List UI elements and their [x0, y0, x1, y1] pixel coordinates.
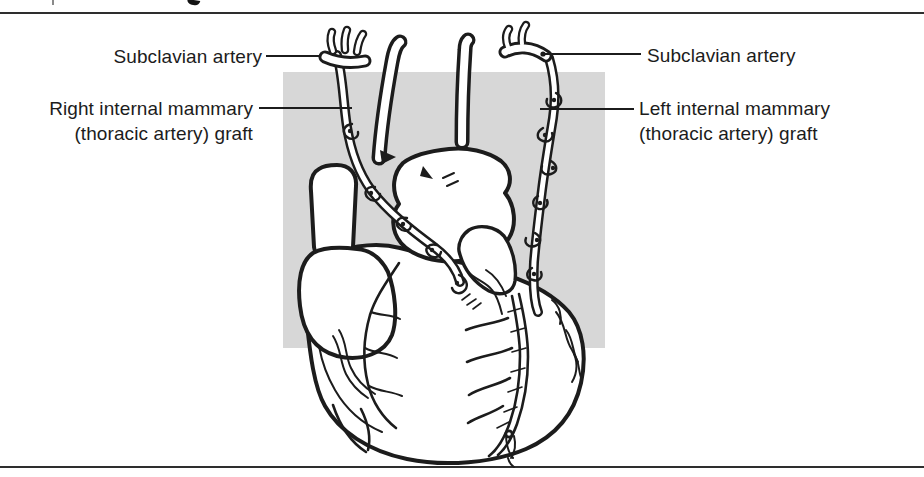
leader-endpoint-dot — [540, 51, 545, 56]
label-rima-graft: Right internal mammary (thoracic artery)… — [49, 96, 253, 146]
label-subclavian-right: Subclavian artery — [647, 43, 796, 68]
right-atrium — [299, 248, 395, 358]
label-lima-line1: Left internal mammary — [639, 96, 830, 121]
heart-illustration — [0, 0, 924, 477]
label-subclavian-left: Subclavian artery — [114, 44, 263, 69]
subclavian-artery-right — [505, 25, 546, 56]
label-rima-line1: Right internal mammary — [49, 96, 253, 121]
label-lima-line2: (thoracic artery) graft — [639, 121, 830, 146]
label-lima-graft: Left internal mammary (thoracic artery) … — [639, 96, 830, 146]
subclavian-artery-left — [325, 30, 365, 62]
label-rima-line2: (thoracic artery) graft — [49, 121, 253, 146]
figure-canvas: Subclavian artery Right internal mammary… — [0, 0, 924, 477]
